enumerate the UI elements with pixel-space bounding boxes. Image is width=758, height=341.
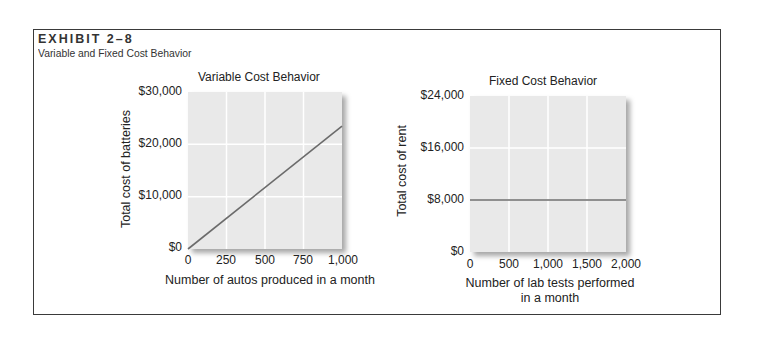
y-tick: $8,000 [394,192,464,206]
plot-area [470,96,626,252]
y-tick: $30,000 [112,84,182,98]
plot-svg [188,92,342,249]
y-tick: $16,000 [394,140,464,154]
y-tick: $20,000 [112,136,182,150]
x-tick: 2,000 [601,257,651,271]
exhibit-subtitle: Variable and Fixed Cost Behavior [38,47,191,59]
x-axis-label: Number of autos produced in a month [150,273,390,288]
y-axis-label: Total cost of batteries [119,69,133,269]
y-tick: $24,000 [394,88,464,102]
y-tick: $10,000 [112,188,182,202]
chart-title: Fixed Cost Behavior [489,74,597,88]
exhibit-label: EXHIBIT 2–8 [38,32,134,46]
plot-svg [470,96,626,252]
x-axis-label-line2: in a month [440,291,660,306]
y-tick: $0 [112,240,182,254]
x-tick: 1,000 [318,253,368,267]
x-axis-label-line1: Number of lab tests performed [440,276,660,291]
plot-area [188,92,342,249]
x-axis-label: Number of lab tests performed in a month [440,276,660,306]
y-tick: $0 [394,244,464,258]
chart-title: Variable Cost Behavior [198,70,320,84]
